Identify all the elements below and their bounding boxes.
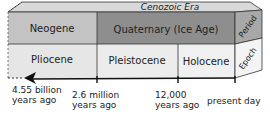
era-label: Cenozoic Era bbox=[141, 2, 199, 12]
period-neogene-label: Neogene bbox=[30, 23, 75, 34]
tick-label-present-day: present day bbox=[207, 96, 261, 106]
period-quaternary-label: Quaternary (Ice Age) bbox=[114, 24, 219, 35]
tick-label-4.55-billion-line2: years ago bbox=[12, 95, 57, 105]
tick-label-2.6-million-line2: years ago bbox=[72, 100, 117, 110]
timeline-line bbox=[30, 78, 235, 79]
tick-label-4.55-billion-line1: 4.55 billion bbox=[12, 85, 62, 95]
epoch-pliocene-label: Pliocene bbox=[31, 54, 73, 65]
era-top-face bbox=[8, 2, 262, 12]
tick-label-12000-line2: years ago bbox=[155, 100, 200, 110]
epoch-pleistocene-label: Pleistocene bbox=[108, 55, 165, 66]
tick-label-12000-line1: 12,000 bbox=[155, 90, 187, 100]
geologic-timescale-diagram: Cenozoic Era Neogene Quaternary (Ice Age… bbox=[0, 0, 270, 118]
tick-label-2.6-million-line1: 2.6 million bbox=[72, 90, 119, 100]
epoch-holocene-label: Holocene bbox=[183, 56, 230, 67]
